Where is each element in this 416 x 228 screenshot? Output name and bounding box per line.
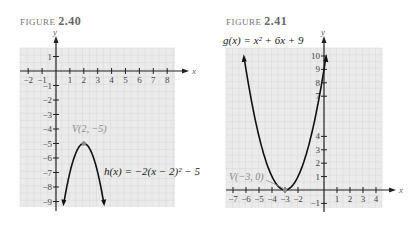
y-tick-label: −7 [42, 168, 52, 178]
y-tick-label: 10 [311, 51, 321, 61]
x-tick-label: 4 [374, 194, 379, 204]
x-tick-label: 1 [68, 75, 73, 85]
y-tick-label: −9 [42, 197, 52, 207]
x-axis-arrow-icon [389, 188, 396, 193]
x-tick-label: −2 [293, 194, 303, 204]
function-equation: h(x) = −2(x − 2)² − 5 [104, 165, 200, 178]
y-tick-label: 9 [316, 64, 321, 74]
x-tick-label: −5 [254, 194, 264, 204]
y-tick-label: −2 [42, 95, 52, 105]
y-tick-label: 1 [316, 172, 321, 182]
x-tick-label: −4 [267, 194, 277, 204]
y-tick-label: −6 [42, 153, 52, 163]
x-tick-label: 3 [361, 194, 366, 204]
x-axis-label: x [191, 66, 196, 76]
y-tick-label: −3 [42, 110, 52, 120]
y-axis-label: y [52, 27, 57, 37]
y-tick-label: −5 [42, 139, 52, 149]
x-tick-label: 2 [82, 75, 87, 85]
vertex-point [283, 188, 287, 192]
x-tick-label: 5 [123, 75, 128, 85]
function-equation: g(x) = x² + 6x + 9 [223, 34, 304, 47]
y-tick-label: 1 [48, 52, 53, 62]
x-tick-label: 8 [165, 75, 170, 85]
x-axis-arrow-icon [182, 69, 189, 74]
vertex-label: V(−3, 0) [229, 171, 264, 183]
x-tick-label: 2 [348, 194, 353, 204]
y-tick-label: 8 [316, 78, 321, 88]
y-axis-label: y [320, 27, 325, 37]
y-tick-label: −8 [42, 182, 52, 192]
vertex-point [82, 141, 86, 145]
x-tick-label: −7 [228, 194, 238, 204]
y-tick-label: 2 [316, 158, 321, 168]
y-tick-label: −1 [42, 81, 52, 91]
vertex-label: V(2, −5) [72, 123, 107, 135]
x-tick-label: −6 [241, 194, 251, 204]
x-tick-label: 6 [137, 75, 142, 85]
y-tick-label: −1 [310, 198, 320, 208]
x-tick-label: −3 [280, 194, 290, 204]
figure-graphs: xy−2−1123456781−1−2−3−4−5−6−7−8−9xy−7−6−… [0, 0, 416, 228]
y-tick-label: −4 [42, 124, 52, 134]
y-tick-label: 3 [316, 145, 321, 155]
y-axis-arrow-icon [322, 36, 327, 43]
x-axis-label: x [398, 185, 403, 195]
x-tick-label: 4 [109, 75, 114, 85]
y-axis-arrow-icon [54, 36, 59, 43]
x-tick-label: −2 [23, 75, 33, 85]
x-tick-label: 7 [151, 75, 156, 85]
x-tick-label: 1 [335, 194, 340, 204]
y-tick-label: 4 [316, 131, 321, 141]
x-tick-label: 3 [95, 75, 100, 85]
